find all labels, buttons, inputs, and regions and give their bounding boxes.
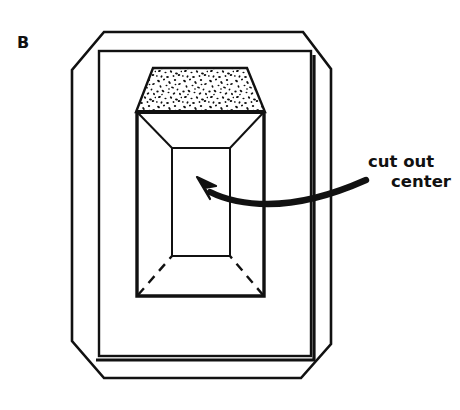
panel-letter-label: B (17, 35, 29, 51)
callout-label-line-2: center (368, 172, 460, 192)
callout-arrow-curve (210, 180, 366, 204)
callout-arrow (197, 177, 366, 204)
cavity-diagonal-bottom-left (138, 256, 172, 295)
cavity-diagonal-top-right (230, 113, 263, 148)
callout-label-line-1: cut out (368, 152, 460, 172)
cavity-diagonal-bottom-right (230, 256, 263, 295)
callout-label: cut out center (368, 152, 460, 192)
technical-line-drawing (0, 0, 460, 410)
cavity-inner-shaft (172, 148, 230, 256)
figure-panel-b: B (0, 0, 460, 410)
stippled-chamfer-face (136, 68, 265, 112)
cavity-diagonal-top-left (138, 113, 172, 148)
